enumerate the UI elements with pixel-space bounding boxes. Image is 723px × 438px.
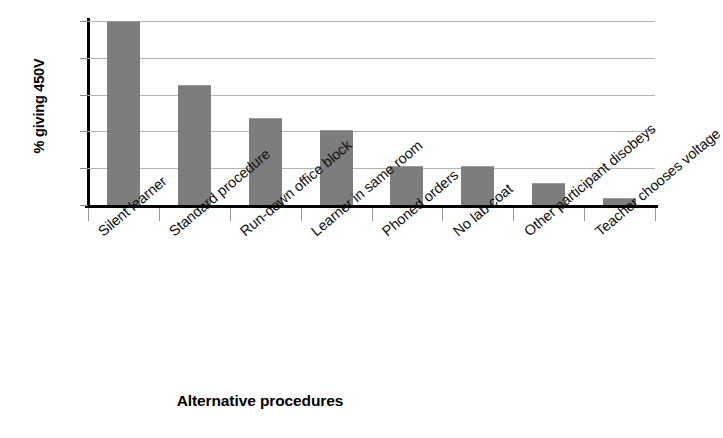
x-tick-mark: [159, 208, 160, 221]
x-tick-mark: [88, 208, 89, 221]
x-axis-title: Alternative procedures: [0, 392, 520, 410]
y-tick-mark: [80, 168, 88, 169]
bar: [107, 21, 140, 205]
x-tick-mark: [230, 208, 231, 221]
gridline: [88, 168, 655, 169]
y-tick-mark: [80, 58, 88, 59]
y-axis-line: [87, 18, 90, 207]
y-tick-mark: [80, 95, 88, 96]
x-tick-mark: [584, 208, 585, 221]
gridline: [88, 21, 655, 22]
y-tick-mark: [80, 21, 88, 22]
x-tick-mark: [513, 208, 514, 221]
x-tick-mark: [372, 208, 373, 221]
x-tick-mark: [442, 208, 443, 221]
gridline: [88, 131, 655, 132]
x-tick-mark: [655, 208, 656, 221]
x-tick-mark: [301, 208, 302, 221]
gridline: [88, 58, 655, 59]
bar: [178, 85, 211, 205]
gridline: [88, 95, 655, 96]
y-tick-mark: [80, 131, 88, 132]
y-tick-mark: [80, 205, 88, 206]
y-axis-title: % giving 450V: [31, 31, 47, 181]
